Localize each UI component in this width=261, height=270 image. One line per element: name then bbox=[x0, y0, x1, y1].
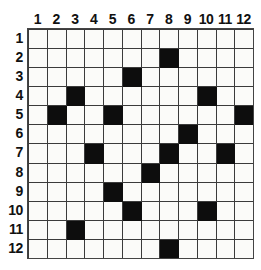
grid-cell-r11c11[interactable] bbox=[216, 220, 235, 239]
grid-cell-r7c10[interactable] bbox=[197, 144, 216, 163]
grid-cell-r5c10[interactable] bbox=[197, 106, 216, 125]
grid-cell-r6c12[interactable] bbox=[235, 125, 254, 144]
grid-cell-r9c10[interactable] bbox=[197, 182, 216, 201]
grid-cell-r8c10[interactable] bbox=[197, 163, 216, 182]
grid-cell-r3c8[interactable] bbox=[160, 68, 179, 87]
grid-cell-r10c12[interactable] bbox=[235, 201, 254, 220]
grid-cell-r7c7[interactable] bbox=[141, 144, 160, 163]
grid-cell-r9c11[interactable] bbox=[216, 182, 235, 201]
grid-cell-r12c4[interactable] bbox=[85, 239, 104, 258]
grid-cell-r11c6[interactable] bbox=[122, 220, 141, 239]
grid-cell-r4c6[interactable] bbox=[122, 87, 141, 106]
grid-cell-r5c11[interactable] bbox=[216, 106, 235, 125]
grid-cell-r7c2[interactable] bbox=[47, 144, 66, 163]
grid-cell-r7c9[interactable] bbox=[179, 144, 198, 163]
grid-cell-r2c12[interactable] bbox=[235, 49, 254, 68]
grid-cell-r3c3[interactable] bbox=[66, 68, 85, 87]
grid-cell-r7c5[interactable] bbox=[104, 144, 123, 163]
grid-cell-r12c8[interactable] bbox=[160, 239, 179, 258]
grid-cell-r9c6[interactable] bbox=[122, 182, 141, 201]
grid-cell-r7c6[interactable] bbox=[122, 144, 141, 163]
grid-cell-r1c9[interactable] bbox=[179, 30, 198, 49]
grid-cell-r5c5[interactable] bbox=[104, 106, 123, 125]
grid-cell-r1c3[interactable] bbox=[66, 30, 85, 49]
grid-cell-r4c12[interactable] bbox=[235, 87, 254, 106]
grid-cell-r3c11[interactable] bbox=[216, 68, 235, 87]
grid-cell-r10c11[interactable] bbox=[216, 201, 235, 220]
grid-cell-r10c4[interactable] bbox=[85, 201, 104, 220]
grid-cell-r3c1[interactable] bbox=[29, 68, 48, 87]
grid-cell-r6c1[interactable] bbox=[29, 125, 48, 144]
grid-cell-r12c10[interactable] bbox=[197, 239, 216, 258]
grid-cell-r8c5[interactable] bbox=[104, 163, 123, 182]
grid-cell-r4c1[interactable] bbox=[29, 87, 48, 106]
grid-cell-r6c4[interactable] bbox=[85, 125, 104, 144]
grid-table[interactable] bbox=[28, 29, 254, 259]
grid-cell-r7c11[interactable] bbox=[216, 144, 235, 163]
grid-cell-r10c1[interactable] bbox=[29, 201, 48, 220]
grid-cell-r2c5[interactable] bbox=[104, 49, 123, 68]
grid-cell-r2c7[interactable] bbox=[141, 49, 160, 68]
grid-cell-r6c2[interactable] bbox=[47, 125, 66, 144]
grid-cell-r4c10[interactable] bbox=[197, 87, 216, 106]
grid-cell-r5c2[interactable] bbox=[47, 106, 66, 125]
grid-cell-r9c8[interactable] bbox=[160, 182, 179, 201]
grid-cell-r1c10[interactable] bbox=[197, 30, 216, 49]
grid-cell-r1c6[interactable] bbox=[122, 30, 141, 49]
grid-cell-r1c2[interactable] bbox=[47, 30, 66, 49]
grid-cell-r7c12[interactable] bbox=[235, 144, 254, 163]
grid-cell-r5c7[interactable] bbox=[141, 106, 160, 125]
grid-cell-r11c2[interactable] bbox=[47, 220, 66, 239]
grid-cell-r11c9[interactable] bbox=[179, 220, 198, 239]
grid-cell-r6c7[interactable] bbox=[141, 125, 160, 144]
grid-cell-r1c5[interactable] bbox=[104, 30, 123, 49]
grid-cell-r1c1[interactable] bbox=[29, 30, 48, 49]
grid-cell-r11c7[interactable] bbox=[141, 220, 160, 239]
grid-cell-r2c8[interactable] bbox=[160, 49, 179, 68]
grid-cell-r2c9[interactable] bbox=[179, 49, 198, 68]
grid-cell-r8c8[interactable] bbox=[160, 163, 179, 182]
grid-cell-r2c1[interactable] bbox=[29, 49, 48, 68]
grid-cell-r1c7[interactable] bbox=[141, 30, 160, 49]
grid-cell-r9c7[interactable] bbox=[141, 182, 160, 201]
grid-cell-r4c11[interactable] bbox=[216, 87, 235, 106]
grid-cell-r6c10[interactable] bbox=[197, 125, 216, 144]
grid-cell-r2c3[interactable] bbox=[66, 49, 85, 68]
grid-cell-r6c6[interactable] bbox=[122, 125, 141, 144]
grid-cell-r12c3[interactable] bbox=[66, 239, 85, 258]
grid-cell-r9c12[interactable] bbox=[235, 182, 254, 201]
grid-cell-r5c6[interactable] bbox=[122, 106, 141, 125]
grid-cell-r8c9[interactable] bbox=[179, 163, 198, 182]
grid-cell-r5c9[interactable] bbox=[179, 106, 198, 125]
grid-cell-r11c8[interactable] bbox=[160, 220, 179, 239]
grid-cell-r10c10[interactable] bbox=[197, 201, 216, 220]
grid-cell-r11c12[interactable] bbox=[235, 220, 254, 239]
grid-cell-r3c5[interactable] bbox=[104, 68, 123, 87]
grid-cell-r12c1[interactable] bbox=[29, 239, 48, 258]
grid-cell-r3c7[interactable] bbox=[141, 68, 160, 87]
grid-cell-r9c4[interactable] bbox=[85, 182, 104, 201]
grid-cell-r4c3[interactable] bbox=[66, 87, 85, 106]
grid-cell-r9c3[interactable] bbox=[66, 182, 85, 201]
grid-cell-r2c11[interactable] bbox=[216, 49, 235, 68]
grid-body[interactable] bbox=[28, 29, 253, 258]
grid-cell-r1c12[interactable] bbox=[235, 30, 254, 49]
grid-cell-r4c2[interactable] bbox=[47, 87, 66, 106]
grid-cell-r11c5[interactable] bbox=[104, 220, 123, 239]
grid-cell-r9c1[interactable] bbox=[29, 182, 48, 201]
grid-cell-r12c2[interactable] bbox=[47, 239, 66, 258]
grid-cell-r12c5[interactable] bbox=[104, 239, 123, 258]
grid-cell-r10c5[interactable] bbox=[104, 201, 123, 220]
grid-cell-r12c6[interactable] bbox=[122, 239, 141, 258]
grid-cell-r5c3[interactable] bbox=[66, 106, 85, 125]
grid-cell-r7c4[interactable] bbox=[85, 144, 104, 163]
grid-cell-r4c5[interactable] bbox=[104, 87, 123, 106]
grid-cell-r10c9[interactable] bbox=[179, 201, 198, 220]
grid-cell-r3c9[interactable] bbox=[179, 68, 198, 87]
grid-cell-r5c1[interactable] bbox=[29, 106, 48, 125]
grid-cell-r7c3[interactable] bbox=[66, 144, 85, 163]
grid-cell-r8c3[interactable] bbox=[66, 163, 85, 182]
grid-cell-r7c1[interactable] bbox=[29, 144, 48, 163]
grid-cell-r6c5[interactable] bbox=[104, 125, 123, 144]
grid-cell-r4c7[interactable] bbox=[141, 87, 160, 106]
